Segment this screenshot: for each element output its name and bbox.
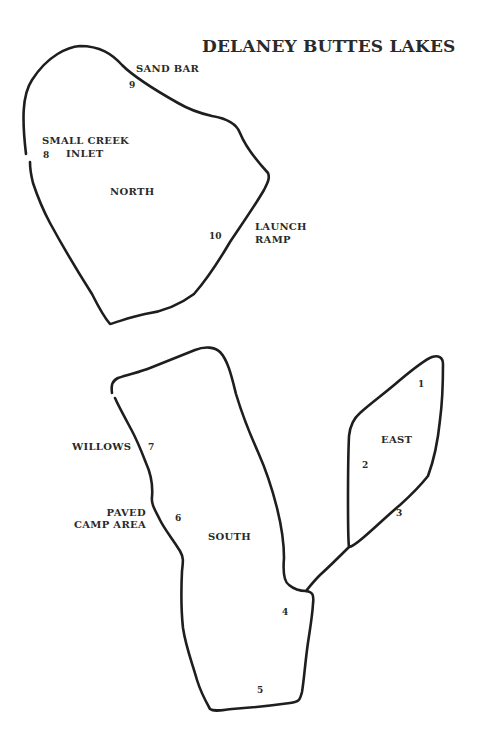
marker-7: 7	[148, 442, 154, 452]
marker-6: 6	[175, 513, 181, 523]
label-launch: LAUNCH	[255, 220, 307, 233]
label-camp-area: CAMP AREA	[46, 518, 146, 531]
label-sand-bar: SAND BAR	[136, 62, 199, 75]
label-east-lake: EAST	[381, 433, 412, 446]
marker-10: 10	[209, 231, 222, 241]
label-willows: WILLOWS	[72, 440, 131, 453]
marker-3: 3	[396, 508, 402, 518]
label-south-lake: SOUTH	[208, 530, 251, 543]
east-lake-outline	[348, 356, 443, 547]
lake-map	[0, 0, 478, 742]
marker-9: 9	[129, 80, 135, 90]
marker-4: 4	[282, 607, 288, 617]
map-title: DELANEY BUTTES LAKES	[202, 36, 456, 56]
connecting-channel	[306, 547, 349, 591]
marker-2: 2	[362, 460, 368, 470]
marker-8: 8	[43, 150, 49, 160]
label-small-creek: SMALL CREEK	[42, 134, 129, 147]
marker-1: 1	[418, 379, 424, 389]
marker-5: 5	[257, 685, 263, 695]
label-ramp: RAMP	[255, 233, 291, 246]
label-inlet: INLET	[66, 147, 103, 160]
label-north-lake: NORTH	[110, 185, 154, 198]
